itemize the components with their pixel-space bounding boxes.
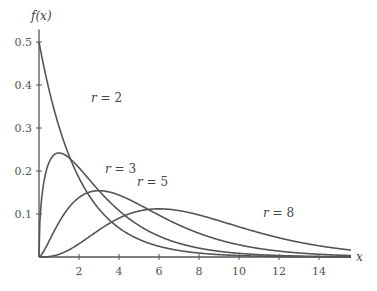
y-tick-label: 0.1 <box>15 208 33 221</box>
curve-label-r-2: r = 2 <box>91 91 122 105</box>
curve-r-8 <box>39 209 351 257</box>
y-tick-label: 0.4 <box>15 79 33 92</box>
curves <box>39 42 351 257</box>
y-tick-label: 0.3 <box>15 122 33 135</box>
x-axis-label: x <box>356 250 363 264</box>
y-tick-label: 0.5 <box>15 36 33 49</box>
y-axis-label: f(x) <box>30 9 52 23</box>
x-tick-label: 2 <box>76 265 83 278</box>
x-tick-label: 8 <box>196 265 203 278</box>
curve-r-3 <box>39 153 351 257</box>
y-tick-label: 0.2 <box>15 165 33 178</box>
x-tick-label: 4 <box>116 265 123 278</box>
x-tick-label: 12 <box>272 265 286 278</box>
curve-label-r-3: r = 3 <box>105 162 136 176</box>
curve-label-r-8: r = 8 <box>263 206 294 220</box>
curve-label-r-5: r = 5 <box>137 175 168 189</box>
x-tick-label: 14 <box>312 265 326 278</box>
chi-square-chart: 0.10.20.30.40.52468101214xf(x) r = 2r = … <box>0 0 377 291</box>
x-tick-label: 10 <box>232 265 246 278</box>
labels: r = 2r = 3r = 5r = 8 <box>91 91 294 220</box>
x-tick-label: 6 <box>156 265 163 278</box>
axes: 0.10.20.30.40.52468101214xf(x) <box>15 9 364 278</box>
curve-r-2 <box>39 42 351 257</box>
